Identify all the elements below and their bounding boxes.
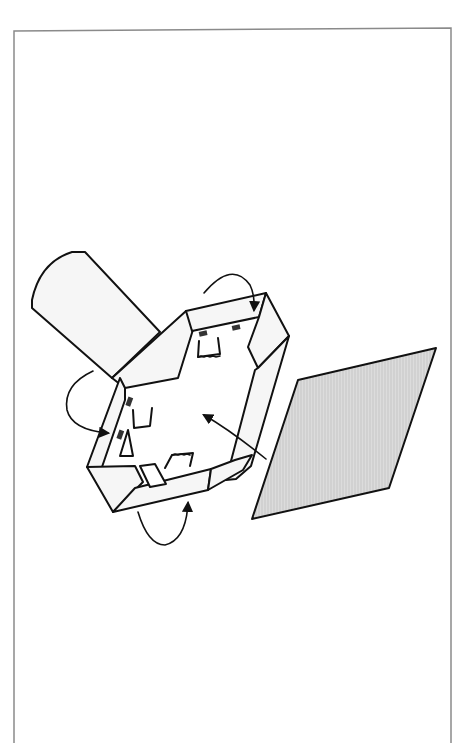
fold-arrow-bottom (138, 503, 188, 545)
assembly-diagram (0, 0, 468, 743)
panel (252, 348, 436, 519)
diagram-canvas (0, 0, 468, 743)
fold-arrow-left (67, 371, 108, 433)
